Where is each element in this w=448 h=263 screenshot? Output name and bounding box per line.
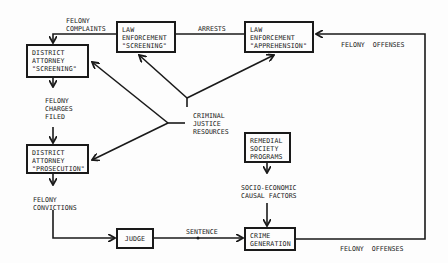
node-line: "APPREHENSION": [250, 42, 308, 50]
label-socio-economic: SOCIO-ECONOMIC CAUSAL FACTORS: [241, 184, 297, 200]
label-line: FELONY OFFENSES: [341, 41, 405, 49]
node-crime-generation: CRIME GENERATION: [244, 227, 296, 251]
label-line: SENTENCE: [186, 228, 218, 236]
label-sentence: SENTENCE: [186, 228, 218, 236]
label-line: FELONY: [66, 17, 106, 25]
node-line: REMEDIAL: [250, 137, 285, 145]
node-line: "SCREENING": [32, 65, 83, 73]
label-line: ARRESTS: [198, 25, 226, 33]
node-line: "PROSECUTION": [32, 165, 83, 173]
label-felony-convictions: FELONY CONVICTIONS: [33, 196, 77, 212]
label-line: FELONY OFFENSES: [340, 245, 404, 253]
label-line: CHARGES: [45, 105, 73, 113]
edge-felony-offenses: [295, 34, 425, 239]
edge-felony-complaints: [53, 34, 117, 43]
node-line: ATTORNEY: [32, 157, 83, 165]
node-line: JUDGE: [122, 235, 148, 243]
node-le-apprehension: LAW ENFORCEMENT "APPREHENSION": [244, 21, 314, 53]
label-line: FELONY: [33, 196, 77, 204]
node-line: ATTORNEY: [32, 57, 83, 65]
edge-resources-da-prosecution: [92, 123, 168, 160]
node-da-screening: DISTRICT ATTORNEY "SCREENING": [26, 44, 89, 78]
node-le-screening: LAW ENFORCEMENT "SCREENING": [116, 21, 176, 53]
edge-resources-le-screening: [139, 55, 187, 98]
label-line: RESOURCES: [193, 128, 229, 136]
node-line: LAW: [250, 26, 308, 34]
edge-to-judge: [53, 210, 115, 238]
node-line: CRIME: [250, 232, 290, 240]
node-line: DISTRICT: [32, 49, 83, 57]
label-line: FILED: [45, 113, 73, 121]
label-line: CONVICTIONS: [33, 204, 77, 212]
node-line: ENFORCEMENT: [122, 34, 170, 42]
node-remedial-programs: REMEDIAL SOCIETY PROGRAMS: [244, 132, 291, 163]
node-da-prosecution: DISTRICT ATTORNEY "PROSECUTION": [26, 144, 89, 174]
label-felony-complaints: FELONY COMPLAINTS: [66, 17, 106, 33]
node-line: DISTRICT: [32, 149, 83, 157]
node-line: GENERATION: [250, 240, 290, 248]
label-line: SOCIO-ECONOMIC: [241, 184, 297, 192]
label-line: JUSTICE: [193, 120, 229, 128]
node-line: ENFORCEMENT: [250, 34, 308, 42]
label-felony-charges-filed: FELONY CHARGES FILED: [45, 97, 73, 121]
node-line: SOCIETY: [250, 145, 285, 153]
label-line: FELONY: [45, 97, 73, 105]
node-line: LAW: [122, 26, 170, 34]
label-arrests: ARRESTS: [198, 25, 226, 33]
label-felony-offenses-top: FELONY OFFENSES: [341, 25, 405, 57]
node-judge: JUDGE: [116, 228, 154, 249]
node-line: "SCREENING": [122, 42, 170, 50]
label-line: CAUSAL FACTORS: [241, 192, 297, 200]
label-line: COMPLAINTS: [66, 25, 106, 33]
label-felony-offenses-bottom: FELONY OFFENSES: [340, 229, 404, 261]
label-criminal-justice-resources: CRIMINAL JUSTICE RESOURCES: [193, 112, 229, 136]
label-line: CRIMINAL: [193, 112, 229, 120]
node-line: PROGRAMS: [250, 153, 285, 161]
sentence-dot: [197, 237, 200, 240]
edge-resources-le-apprehension: [187, 55, 274, 98]
